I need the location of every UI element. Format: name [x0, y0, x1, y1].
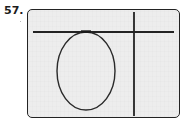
- scan-artifact-speck: [20, 21, 21, 22]
- rounded-rectangle-frame: [27, 9, 180, 118]
- paper-texture-overlay: [28, 10, 179, 117]
- figure-root: 57.: [0, 0, 188, 125]
- problem-number-label: 57.: [4, 5, 24, 17]
